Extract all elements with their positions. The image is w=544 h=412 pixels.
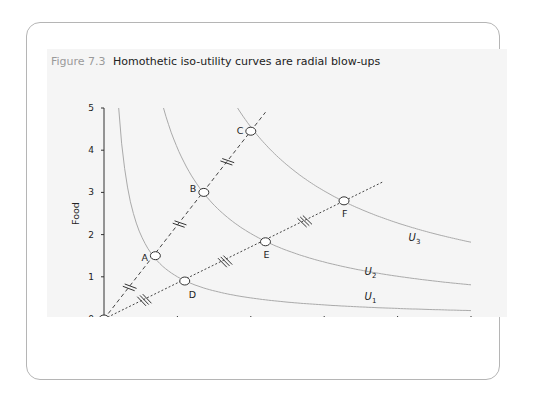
- equal-distance-mark: [140, 295, 149, 304]
- y-tick-label: 1: [88, 272, 94, 282]
- point-B: [199, 188, 209, 196]
- point-D: [180, 277, 190, 285]
- point-label: A: [141, 252, 148, 263]
- y-tick-label: 3: [88, 187, 94, 197]
- point-label: D: [189, 289, 196, 300]
- figure-card: » Figure 7.3 Homothetic iso-utility curv…: [26, 22, 500, 380]
- figure-panel: Figure 7.3 Homothetic iso-utility curves…: [47, 49, 507, 317]
- point-label: B: [190, 183, 197, 194]
- point-A: [150, 252, 160, 260]
- point-label: C: [237, 125, 244, 136]
- y-tick-label: 5: [88, 103, 94, 113]
- point-origin: [99, 315, 109, 317]
- point-label: F: [342, 208, 347, 219]
- ray-line: [104, 112, 265, 317]
- figure-caption: Figure 7.3 Homothetic iso-utility curves…: [51, 55, 380, 68]
- equal-distance-mark: [137, 297, 146, 306]
- iso-utility-curve-U3: [238, 108, 471, 242]
- point-E: [260, 238, 270, 246]
- point-label: E: [263, 249, 269, 260]
- y-axis-label: Food: [70, 202, 81, 225]
- equal-distance-mark: [221, 257, 230, 266]
- equal-distance-mark: [303, 216, 312, 225]
- y-tick-label: 0: [88, 314, 94, 317]
- chart: 012345012345ManufacturesFoodABCDEFU1U2U3: [47, 75, 507, 317]
- curve-label-U3: U3: [409, 232, 421, 246]
- curve-label-U1: U1: [365, 291, 377, 305]
- y-tick-label: 2: [88, 230, 94, 240]
- curve-label-U2: U2: [365, 266, 377, 280]
- figure-number: Figure 7.3: [51, 55, 106, 68]
- point-C: [246, 127, 256, 135]
- point-F: [339, 197, 349, 205]
- y-tick-label: 4: [88, 145, 94, 155]
- iso-utility-curve-U1: [119, 108, 471, 311]
- equal-distance-mark: [143, 294, 152, 303]
- iso-utility-curve-U2: [164, 108, 472, 285]
- figure-title: Homothetic iso-utility curves are radial…: [113, 55, 380, 68]
